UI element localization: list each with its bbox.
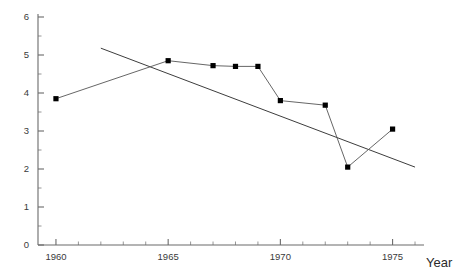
y-tick-label: 4 [24, 87, 29, 98]
data-point-marker [323, 103, 328, 108]
data-point-markers [53, 58, 395, 170]
x-axis-tick-labels: 1960196519701975 [45, 251, 403, 262]
data-point-marker [390, 127, 395, 132]
data-point-marker [255, 64, 260, 69]
x-tick-label: 1970 [270, 251, 291, 262]
x-tick-label: 1975 [382, 251, 403, 262]
y-tick-label: 6 [24, 11, 29, 22]
line-chart: 0123456 1960196519701975 Year [0, 0, 454, 278]
x-tick-label: 1965 [158, 251, 179, 262]
data-point-marker [233, 64, 238, 69]
x-axis-title: Year [426, 255, 453, 270]
y-axis-ticks [38, 17, 44, 245]
y-tick-label: 3 [24, 125, 29, 136]
data-point-marker [278, 98, 283, 103]
data-point-marker [53, 96, 58, 101]
data-point-marker [345, 165, 350, 170]
x-tick-label: 1960 [45, 251, 66, 262]
y-tick-label: 5 [24, 49, 29, 60]
y-axis-tick-labels: 0123456 [24, 11, 29, 250]
y-tick-label: 2 [24, 163, 29, 174]
chart-container: 0123456 1960196519701975 Year [0, 0, 454, 278]
data-point-marker [166, 58, 171, 63]
observed-line-series [56, 61, 393, 167]
y-tick-label: 1 [24, 201, 29, 212]
data-point-marker [210, 63, 215, 68]
x-axis-ticks [56, 239, 415, 245]
y-tick-label: 0 [24, 239, 29, 250]
